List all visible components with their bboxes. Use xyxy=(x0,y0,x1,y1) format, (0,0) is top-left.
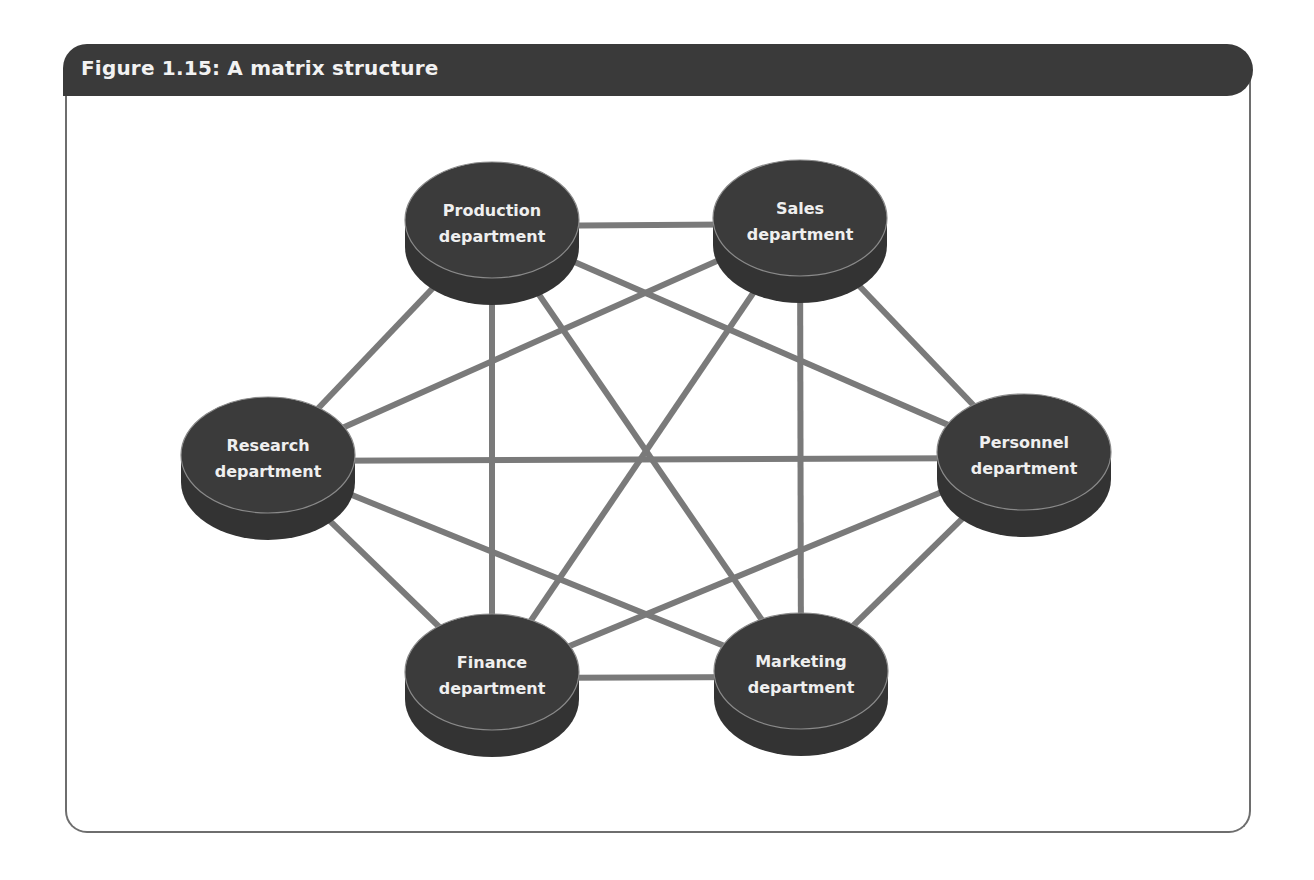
node-label-line2: department xyxy=(748,678,855,697)
node-label-line1: Sales xyxy=(776,199,824,218)
disc-top xyxy=(713,160,887,276)
node-production-department: Production department xyxy=(405,162,579,305)
edge-research-personnel xyxy=(268,458,1024,461)
node-label-line2: department xyxy=(439,227,546,246)
node-label-line2: department xyxy=(747,225,854,244)
node-label-line2: department xyxy=(215,462,322,481)
node-label-line1: Personnel xyxy=(979,433,1069,452)
disc-top xyxy=(405,614,579,730)
node-finance-department: Finance department xyxy=(405,614,579,757)
node-sales-department: Sales department xyxy=(713,160,887,303)
node-personnel-department: Personnel department xyxy=(937,394,1111,537)
node-label-line1: Finance xyxy=(457,653,527,672)
node-label-line2: department xyxy=(439,679,546,698)
disc-top xyxy=(714,613,888,729)
node-label-line1: Production xyxy=(443,201,541,220)
disc-top xyxy=(181,397,355,513)
matrix-diagram: Production department Sales department R… xyxy=(0,0,1314,880)
edge-layer xyxy=(268,224,1024,678)
node-label-line2: department xyxy=(971,459,1078,478)
disc-top xyxy=(937,394,1111,510)
disc-top xyxy=(405,162,579,278)
node-research-department: Research department xyxy=(181,397,355,540)
node-marketing-department: Marketing department xyxy=(714,613,888,756)
node-label-line1: Research xyxy=(226,436,309,455)
node-label-line1: Marketing xyxy=(755,652,847,671)
